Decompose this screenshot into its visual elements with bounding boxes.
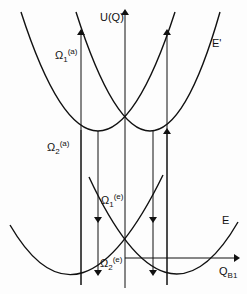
upper-right-parabola <box>76 12 220 131</box>
lower-curve-label: E <box>222 215 229 226</box>
y-axis-label: U(Q) <box>100 12 124 23</box>
potential-energy-diagram: U(Q) E' E QB1 Ω1(a) Ω2(a) Ω1(e) Ω2(e) <box>0 0 247 294</box>
omega1-e-label: Ω1(e) <box>101 193 123 209</box>
omega2-e-label: Ω2(e) <box>100 256 122 272</box>
omega1-a-label: Ω1(a) <box>55 48 77 64</box>
upper-curve-label: E' <box>212 38 221 49</box>
x-axis-label: QB1 <box>219 266 237 280</box>
diagram-graphics <box>0 0 247 294</box>
omega2-a-label: Ω2(a) <box>47 140 69 156</box>
lower-left-parabola <box>10 175 163 275</box>
